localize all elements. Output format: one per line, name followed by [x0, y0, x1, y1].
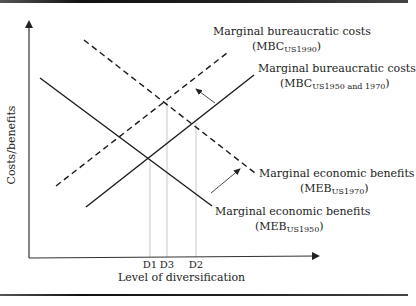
label-meb-1950-abbr: (MEBUS1950) [255, 220, 324, 236]
label-mbc-1950-abbr: (MBCUS1950 and 1970) [280, 77, 390, 93]
tick-d3: D3 [160, 259, 174, 270]
guide-lines [150, 101, 196, 257]
label-meb-1970-title: Marginal economic benefits [259, 167, 414, 180]
x-axis [29, 256, 318, 258]
x-axis-label: Level of diversification [118, 271, 245, 284]
label-meb-1970-abbr: (MEBUS1970) [300, 182, 369, 198]
curve-mbc-1950-1970 [86, 75, 254, 207]
label-mbc-1990-title: Marginal bureaucratic costs [213, 25, 371, 38]
label-meb-1950-title: Marginal economic benefits [215, 205, 370, 218]
y-axis-label: Costs/benefits [5, 105, 18, 184]
tick-d2: D2 [189, 259, 203, 270]
shift-arrow-icon [211, 169, 240, 193]
label-mbc-1990-abbr: (MBCUS1990) [252, 40, 321, 56]
tick-d1: D1 [143, 259, 157, 270]
curve-meb-1970 [84, 40, 255, 173]
shift-arrows [196, 89, 240, 193]
shift-arrow-icon [196, 89, 215, 103]
curve-meb-1950 [40, 78, 212, 206]
curve-mbc-1990 [56, 53, 227, 186]
curves [40, 40, 255, 207]
label-mbc-1950-title: Marginal bureaucratic costs [258, 62, 416, 75]
